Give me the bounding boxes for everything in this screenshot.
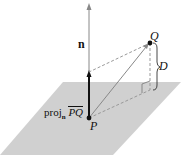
projection-label: projn PQ: [44, 107, 83, 121]
point-p-label: P: [90, 120, 97, 132]
normal-label: n: [78, 38, 85, 50]
diagram-svg: [0, 0, 185, 162]
normal-arrowhead-icon: [87, 3, 92, 10]
projection-prefix: proj: [44, 106, 62, 118]
dashed-top: [89, 43, 150, 72]
distance-label: D: [159, 60, 168, 72]
point-q-label: Q: [150, 30, 159, 42]
projection-subscript: n: [62, 113, 66, 121]
projection-vector-label: PQ: [68, 107, 83, 118]
diagram-canvas: n Q D P projn PQ: [0, 0, 185, 162]
